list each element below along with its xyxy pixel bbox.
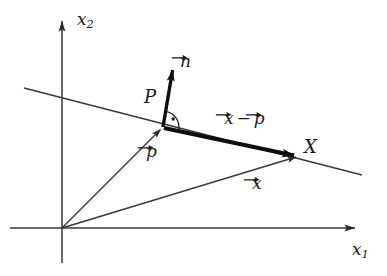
- vector-n-label: n: [180, 53, 191, 70]
- vector-p-label: p: [146, 143, 157, 160]
- vector-n-arrow: [163, 70, 173, 127]
- y-axis-label: x2: [77, 11, 94, 31]
- vector-projection-diagram: x2 x1 P X n p: [0, 0, 387, 276]
- vector-x-label: x: [252, 175, 262, 192]
- x-axis-label: x1: [352, 241, 369, 261]
- point-p-label: P: [144, 88, 156, 106]
- minus-operator: −: [234, 108, 254, 128]
- diagram-canvas: [0, 0, 387, 276]
- plane-edge-line: [24, 88, 362, 175]
- point-x-label: X: [304, 138, 317, 156]
- vector-x-minus-p-arrow: [164, 128, 294, 156]
- vector-x-minus-p-label: x − p: [224, 110, 265, 127]
